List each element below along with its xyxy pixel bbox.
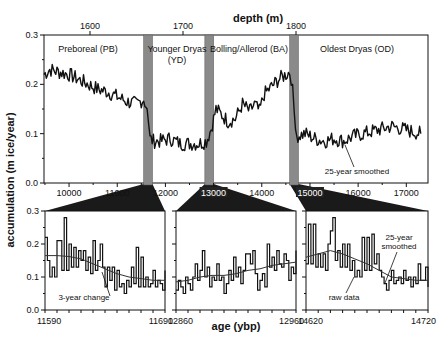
transition-band <box>205 35 214 185</box>
y-axis-title: accumulation (m ice/year) <box>4 112 16 247</box>
three-year-annotation: 3-year change <box>58 293 110 302</box>
depth-tick-label: 1700 <box>173 21 193 31</box>
bottom-panel-1: 0.00.10.20.31159011690 <box>26 206 173 326</box>
bottom-panels: 0.00.10.20.31159011690128601296014620147… <box>26 206 436 326</box>
y-tick-label: 0.2 <box>26 239 39 249</box>
x-tick-label: 14000 <box>249 188 274 198</box>
smoothed-annotation-b3-line2: smoothed <box>381 242 416 251</box>
x-tick-label: 11000 <box>105 188 129 198</box>
period-label-yd-abbr: (YD) <box>168 55 187 65</box>
x-tick-label: 13000 <box>201 188 226 198</box>
x-tick-label: 12860 <box>168 316 193 326</box>
chart: depth (m) 160017001800 0.00.10.20.310000… <box>0 0 445 349</box>
x-tick-label: 14720 <box>411 316 436 326</box>
bottom-panel-2: 1286012960 <box>168 211 304 326</box>
raw-data-annotation: raw data <box>329 293 360 302</box>
zoom-connector-wedge <box>176 184 296 211</box>
top-plot-frame <box>44 35 428 183</box>
depth-tick-label: 1600 <box>80 21 100 31</box>
x-tick-label: 12000 <box>153 188 178 198</box>
transition-band <box>144 35 153 185</box>
smoothed-annotation: 25-year smoothed <box>325 167 389 176</box>
x-tick-label: 10000 <box>57 188 82 198</box>
x-tick-label: 16000 <box>346 188 371 198</box>
period-label-od: Oldest Dryas (OD) <box>320 44 394 54</box>
y-tick-label: 0.3 <box>26 206 39 216</box>
x-tick-label: 11590 <box>37 316 61 326</box>
period-label-yd: Younger Dryas <box>147 44 207 54</box>
y-tick-label: 0.1 <box>26 272 39 282</box>
x-tick-label: 14620 <box>298 316 323 326</box>
y-tick-label: 0.0 <box>26 305 39 315</box>
y-tick-label: 0.3 <box>25 30 38 40</box>
y-tick-label: 0.2 <box>25 79 38 89</box>
age-axis-title: age (ybp) <box>212 320 261 332</box>
x-tick-label: 15000 <box>297 188 322 198</box>
x-tick-label: 17000 <box>394 188 419 198</box>
bottom-panel-3: 1462014720 <box>298 211 436 326</box>
smoothed-annotation-b3-line1: 25-year <box>385 233 412 242</box>
y-tick-label: 0.0 <box>25 178 38 188</box>
depth-tick-label: 1800 <box>286 21 306 31</box>
period-label-pb: Preboreal (PB) <box>58 44 118 54</box>
y-tick-label: 0.1 <box>25 129 38 139</box>
depth-axis-title: depth (m) <box>233 12 283 24</box>
period-label-ba: Bolling/Allerod (BA) <box>210 44 288 54</box>
